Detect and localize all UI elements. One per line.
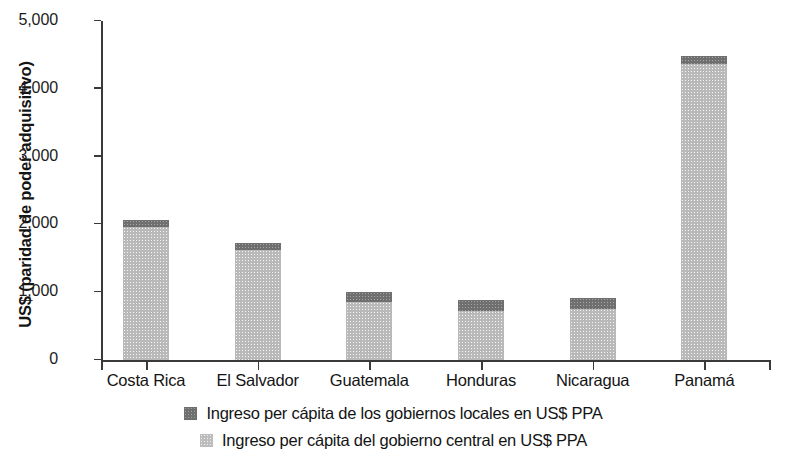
y-axis-tick-label: 4,000 bbox=[0, 79, 58, 97]
x-axis-tick bbox=[101, 362, 103, 370]
legend-row: Ingreso per cápita del gobierno central … bbox=[0, 427, 787, 454]
y-axis-tick bbox=[94, 223, 101, 225]
y-axis-tick-label: 0 bbox=[0, 350, 58, 368]
bar-segment-local-government bbox=[681, 56, 727, 63]
x-axis-tick bbox=[481, 362, 483, 370]
y-axis-tick bbox=[94, 20, 101, 22]
y-axis-tick bbox=[94, 291, 101, 293]
bar-el-salvador bbox=[235, 243, 281, 360]
y-axis-tick-label: 2,000 bbox=[0, 214, 58, 232]
bar-chart: US$ (paridad de poder adquisitivo) 01,00… bbox=[0, 0, 787, 458]
bar-panamá bbox=[681, 56, 727, 360]
x-axis-tick bbox=[258, 362, 260, 370]
x-axis-tick bbox=[593, 362, 595, 370]
x-axis-tick bbox=[146, 362, 148, 370]
bar-segment-central-government bbox=[346, 302, 392, 360]
x-axis-line bbox=[101, 360, 771, 362]
bar-segment-local-government bbox=[123, 220, 169, 227]
bar-segment-central-government bbox=[458, 311, 504, 360]
y-axis-tick-label: 1,000 bbox=[0, 282, 58, 300]
y-axis-tick bbox=[94, 155, 101, 157]
x-axis-tick bbox=[704, 362, 706, 370]
chart-legend: Ingreso per cápita de los gobiernos loca… bbox=[0, 400, 787, 454]
legend-swatch-central-government bbox=[200, 434, 213, 447]
bar-segment-local-government bbox=[235, 243, 281, 250]
bar-segment-central-government bbox=[235, 250, 281, 361]
bar-guatemala bbox=[346, 292, 392, 360]
legend-label-local-government: Ingreso per cápita de los gobiernos loca… bbox=[206, 404, 602, 423]
bar-honduras bbox=[458, 300, 504, 360]
y-axis-line bbox=[101, 21, 103, 362]
bar-segment-local-government bbox=[570, 298, 616, 310]
y-axis-tick-label: 3,000 bbox=[0, 147, 58, 165]
bar-segment-central-government bbox=[681, 64, 727, 360]
x-axis-label-panamá: Panamá bbox=[649, 371, 761, 390]
legend-row: Ingreso per cápita de los gobiernos loca… bbox=[0, 400, 787, 427]
y-axis-tick-label: 5,000 bbox=[0, 11, 58, 29]
plot-area: 01,0002,0003,0004,0005,000 Costa RicaEl … bbox=[101, 21, 771, 361]
x-axis-label-honduras: Honduras bbox=[425, 371, 537, 390]
bar-segment-central-government bbox=[123, 227, 169, 360]
bar-segment-central-government bbox=[570, 309, 616, 360]
x-axis-tick bbox=[369, 362, 371, 370]
bar-segment-local-government bbox=[458, 300, 504, 310]
x-axis-label-costa-rica: Costa Rica bbox=[90, 371, 202, 390]
legend-swatch-local-government bbox=[184, 407, 197, 420]
bar-segment-local-government bbox=[346, 292, 392, 302]
x-axis-label-el-salvador: El Salvador bbox=[202, 371, 314, 390]
x-axis-label-guatemala: Guatemala bbox=[314, 371, 426, 390]
y-axis-tick bbox=[94, 359, 101, 361]
bar-nicaragua bbox=[570, 298, 616, 360]
x-axis-tick bbox=[769, 362, 771, 370]
x-axis-label-nicaragua: Nicaragua bbox=[537, 371, 649, 390]
legend-label-central-government: Ingreso per cápita del gobierno central … bbox=[222, 431, 587, 450]
bar-costa-rica bbox=[123, 220, 169, 360]
y-axis-tick bbox=[94, 87, 101, 89]
